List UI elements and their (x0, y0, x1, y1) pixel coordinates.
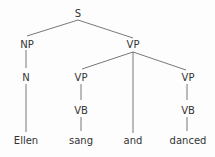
node-vp: VP (127, 39, 140, 50)
edge-vp-vp1 (82, 52, 133, 69)
node-np: NP (20, 39, 34, 50)
syntax-tree: S NP VP N VP VP VB VB Ellen sang and dan… (0, 0, 215, 157)
edge-s-vp (78, 20, 133, 38)
leaf-sang: sang (69, 135, 93, 146)
leaf-ellen: Ellen (14, 135, 38, 146)
tree-nodes: S NP VP N VP VP VB VB Ellen sang and dan… (14, 8, 207, 146)
edge-s-np (27, 20, 78, 36)
node-vp2: VP (182, 72, 195, 83)
node-vp1: VP (75, 72, 88, 83)
leaf-and: and (124, 135, 143, 146)
node-n: N (22, 72, 29, 83)
node-vb1: VB (74, 105, 88, 116)
tree-edges (26, 20, 187, 133)
edge-vp-vp2 (133, 52, 186, 70)
node-s: S (75, 8, 81, 19)
node-vb2: VB (181, 105, 195, 116)
leaf-danced: danced (170, 135, 207, 146)
